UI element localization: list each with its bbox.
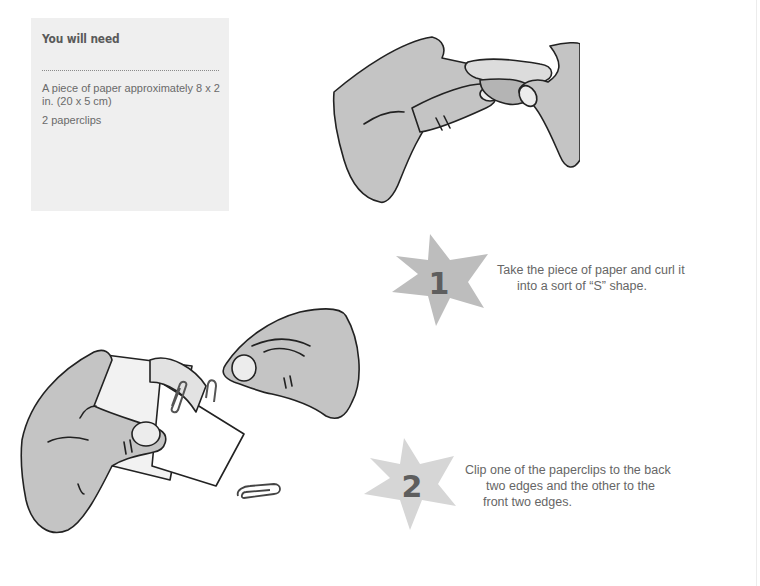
step-1-star-icon: 1: [388, 230, 493, 330]
materials-title: You will need: [42, 31, 119, 46]
step-1-line-1: Take the piece of paper and curl it: [497, 262, 685, 278]
step-2-line-3: front two edges.: [465, 494, 671, 510]
page-edge-divider: [756, 0, 757, 586]
step-2-number: 2: [402, 469, 423, 504]
step-2-line-1: Clip one of the paperclips to the back: [465, 462, 671, 478]
step-1-instructions: Take the piece of paper and curl it into…: [497, 262, 685, 294]
step-1-line-2: into a sort of “S” shape.: [497, 278, 685, 294]
materials-box: You will need A piece of paper approxima…: [31, 18, 229, 211]
step-2-star-icon: 2: [358, 434, 463, 534]
step-2-instructions: Clip one of the paperclips to the back t…: [465, 462, 671, 510]
hands-curling-paper-illustration: [320, 20, 580, 210]
dotted-divider: [42, 70, 219, 71]
hands-clipping-paper-illustration: [20, 290, 370, 550]
materials-item-paper: A piece of paper approximately 8 x 2 in.…: [42, 82, 227, 108]
step-2-line-2: two edges and the other to the: [465, 478, 671, 494]
step-1-number: 1: [429, 266, 450, 301]
materials-item-paperclips: 2 paperclips: [42, 114, 227, 127]
